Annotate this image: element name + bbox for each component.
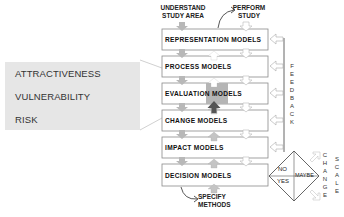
- panel-item-risk: RISK: [15, 114, 38, 125]
- callout-line-top: [140, 60, 162, 68]
- panel-item-attractiveness: ATTRACTIVENESS: [15, 68, 101, 79]
- box-label-impact: IMPACT MODELS: [165, 144, 224, 151]
- feedback-char: F: [288, 62, 296, 70]
- specify-methods-label: SPECIFY METHODS: [198, 193, 232, 209]
- box-label-change: CHANGE MODELS: [165, 117, 228, 124]
- change-char: C: [321, 151, 329, 159]
- feedback-char: B: [288, 94, 296, 102]
- specify-line-2: METHODS: [198, 201, 232, 209]
- change-label: C H A N G E: [321, 151, 329, 199]
- box-label-decision: DECISION MODELS: [165, 172, 231, 179]
- change-char: N: [321, 175, 329, 183]
- perform-line-2: STUDY: [232, 12, 266, 20]
- scale-char: C: [333, 163, 341, 171]
- feedback-char: E: [288, 78, 296, 86]
- change-scale-down-arrow-icon: [310, 190, 320, 200]
- understand-line-1: UNDERSTAND: [160, 4, 206, 12]
- left-arrow-outline-icon: [270, 142, 283, 152]
- scale-char: L: [333, 179, 341, 187]
- change-char: G: [321, 183, 329, 191]
- scale-char: A: [333, 171, 341, 179]
- feedback-char: C: [288, 110, 296, 118]
- specify-line-1: SPECIFY: [198, 193, 232, 201]
- perform-line-1: PERFORM: [232, 4, 266, 12]
- left-arrow-outline-icon: [270, 34, 283, 44]
- feedback-char: E: [288, 70, 296, 78]
- change-scale-up-arrow-icon: [310, 152, 320, 162]
- feedback-char: A: [288, 102, 296, 110]
- change-char: A: [321, 167, 329, 175]
- callout-line-bottom: [140, 118, 162, 130]
- box-label-representation: REPRESENTATION MODELS: [165, 36, 261, 43]
- feedback-char: D: [288, 86, 296, 94]
- decision-maybe-label: MAYBE: [295, 172, 314, 178]
- panel-item-vulnerability: VULNERABILITY: [15, 91, 90, 102]
- evaluation-criteria-panel: ATTRACTIVENESS VULNERABILITY RISK: [5, 62, 140, 130]
- perform-study-label: PERFORM STUDY: [232, 4, 266, 20]
- left-arrow-outline-icon: [270, 61, 283, 71]
- feedback-label: F E E D B A C K: [288, 62, 296, 126]
- left-arrow-outline-icon: [270, 115, 283, 125]
- change-char: H: [321, 159, 329, 167]
- feedback-char: K: [288, 118, 296, 126]
- scale-char: S: [333, 155, 341, 163]
- box-label-process: PROCESS MODELS: [165, 63, 231, 70]
- specify-curved-arrow: [181, 187, 197, 199]
- understand-line-2: STUDY AREA: [160, 12, 206, 20]
- left-arrow-outline-icon: [270, 88, 283, 98]
- decision-no-label: NO: [278, 166, 287, 172]
- scale-char: E: [333, 187, 341, 195]
- scale-label: S C A L E: [333, 155, 341, 195]
- feedback-arrows: [270, 34, 283, 152]
- understand-study-area-label: UNDERSTAND STUDY AREA: [160, 4, 206, 20]
- box-label-evaluation: EVALUATION MODELS: [165, 90, 242, 97]
- change-char: E: [321, 191, 329, 199]
- decision-yes-label: YES: [277, 178, 289, 184]
